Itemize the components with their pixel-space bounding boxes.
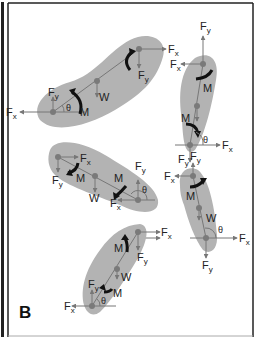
svg-text:M: M (181, 112, 190, 124)
svg-text:Fy: Fy (137, 251, 148, 266)
segment-1: Fx Fy θ M W Fy Fx (6, 36, 179, 127)
svg-text:M: M (114, 172, 123, 184)
joint-dot (136, 46, 142, 52)
svg-text:Fy: Fy (190, 150, 201, 165)
svg-text:θ: θ (203, 135, 208, 145)
free-body-diagram: Fx Fy θ M W Fy Fx Fy Fx M M θ Fx Fy (0, 0, 256, 337)
svg-text:Fy: Fy (178, 153, 189, 168)
svg-text:Fx: Fx (168, 43, 179, 58)
svg-text:Fx: Fx (161, 226, 172, 241)
panel-label: B (19, 303, 31, 323)
center-of-mass-dot (94, 78, 100, 84)
svg-text:Fx: Fx (222, 139, 233, 154)
svg-text:Fx: Fx (64, 300, 75, 315)
svg-text:W: W (99, 91, 110, 103)
svg-text:Fy: Fy (202, 259, 213, 274)
segment-4: Fy Fx M W θ Fx Fy (140, 150, 250, 274)
svg-text:Fy: Fy (200, 20, 211, 35)
svg-text:θ: θ (66, 103, 71, 113)
svg-text:M: M (114, 242, 123, 254)
svg-text:Fx: Fx (164, 170, 175, 185)
svg-text:M: M (203, 82, 212, 94)
svg-text:W: W (121, 271, 132, 283)
svg-text:M: M (80, 106, 89, 118)
segment-3: Fx Fy M W M Fx Fy θ (48, 142, 158, 212)
svg-text:W: W (89, 192, 100, 204)
joint-dot (50, 109, 56, 115)
svg-text:θ: θ (218, 225, 223, 235)
svg-text:Fx: Fx (170, 58, 181, 73)
segment-2: Fy Fx M M θ Fx Fy (170, 20, 233, 168)
svg-text:Fy: Fy (135, 160, 146, 175)
figure-frame: Fx Fy θ M W Fy Fx Fy Fx M M θ Fx Fy (0, 0, 256, 337)
svg-text:M: M (113, 287, 122, 299)
svg-text:W: W (206, 212, 217, 224)
svg-text:θ: θ (142, 185, 147, 195)
svg-text:θ: θ (101, 296, 106, 306)
svg-text:M: M (76, 172, 85, 184)
svg-text:M: M (186, 190, 195, 202)
svg-text:Fx: Fx (239, 232, 250, 247)
